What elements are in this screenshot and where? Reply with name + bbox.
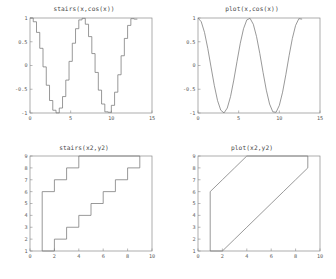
svg-text:1: 1 bbox=[24, 248, 27, 254]
svg-text:3: 3 bbox=[24, 224, 27, 230]
svg-text:0: 0 bbox=[28, 115, 31, 121]
svg-text:7: 7 bbox=[192, 177, 195, 183]
svg-text:5: 5 bbox=[24, 200, 27, 206]
svg-text:5: 5 bbox=[192, 200, 195, 206]
svg-text:2: 2 bbox=[53, 253, 56, 259]
chart-stairs-x-cos-x: 051015-1-0.500.51 bbox=[0, 0, 168, 139]
panel-stairs-x2-y2: stairs(x2,y2) 0246810123456789 bbox=[0, 139, 168, 279]
svg-text:9: 9 bbox=[24, 153, 27, 159]
svg-text:15: 15 bbox=[149, 115, 155, 121]
panel-plot-x-cos-x: plot(x,cos(x)) 051015-1-0.500.51 bbox=[168, 0, 336, 139]
svg-text:0: 0 bbox=[24, 62, 27, 68]
chart-plot-x-cos-x: 051015-1-0.500.51 bbox=[168, 0, 336, 139]
svg-text:4: 4 bbox=[192, 212, 195, 218]
svg-text:2: 2 bbox=[24, 236, 27, 242]
svg-text:5: 5 bbox=[237, 115, 240, 121]
svg-text:-1: -1 bbox=[21, 110, 27, 116]
svg-text:0.5: 0.5 bbox=[18, 39, 27, 45]
chart-plot-x2-y2: 0246810123456789 bbox=[168, 139, 336, 279]
svg-text:6: 6 bbox=[270, 253, 273, 259]
svg-text:6: 6 bbox=[102, 253, 105, 259]
svg-text:9: 9 bbox=[192, 153, 195, 159]
svg-text:0: 0 bbox=[196, 115, 199, 121]
svg-text:0: 0 bbox=[196, 253, 199, 259]
chart-stairs-x2-y2: 0246810123456789 bbox=[0, 139, 168, 279]
svg-text:-1: -1 bbox=[189, 110, 195, 116]
panel-plot-x2-y2: plot(x2,y2) 0246810123456789 bbox=[168, 139, 336, 279]
svg-text:10: 10 bbox=[276, 115, 282, 121]
svg-text:0.5: 0.5 bbox=[186, 39, 195, 45]
svg-text:-0.5: -0.5 bbox=[183, 86, 196, 92]
svg-text:15: 15 bbox=[317, 115, 323, 121]
svg-text:8: 8 bbox=[126, 253, 129, 259]
svg-text:2: 2 bbox=[192, 236, 195, 242]
svg-text:10: 10 bbox=[108, 115, 114, 121]
svg-text:7: 7 bbox=[24, 177, 27, 183]
svg-text:5: 5 bbox=[69, 115, 72, 121]
svg-text:0: 0 bbox=[192, 62, 195, 68]
svg-text:8: 8 bbox=[294, 253, 297, 259]
svg-text:0: 0 bbox=[28, 253, 31, 259]
svg-text:4: 4 bbox=[245, 253, 248, 259]
svg-text:1: 1 bbox=[24, 15, 27, 21]
figure-grid: stairs(x,cos(x)) 051015-1-0.500.51 plot(… bbox=[0, 0, 336, 279]
svg-text:10: 10 bbox=[149, 253, 155, 259]
svg-text:1: 1 bbox=[192, 248, 195, 254]
svg-text:6: 6 bbox=[24, 189, 27, 195]
svg-text:10: 10 bbox=[317, 253, 323, 259]
svg-text:-0.5: -0.5 bbox=[15, 86, 28, 92]
svg-text:8: 8 bbox=[24, 165, 27, 171]
svg-text:6: 6 bbox=[192, 189, 195, 195]
svg-text:4: 4 bbox=[77, 253, 80, 259]
svg-text:4: 4 bbox=[24, 212, 27, 218]
svg-text:8: 8 bbox=[192, 165, 195, 171]
svg-text:2: 2 bbox=[221, 253, 224, 259]
panel-stairs-x-cos-x: stairs(x,cos(x)) 051015-1-0.500.51 bbox=[0, 0, 168, 139]
svg-text:3: 3 bbox=[192, 224, 195, 230]
svg-text:1: 1 bbox=[192, 15, 195, 21]
